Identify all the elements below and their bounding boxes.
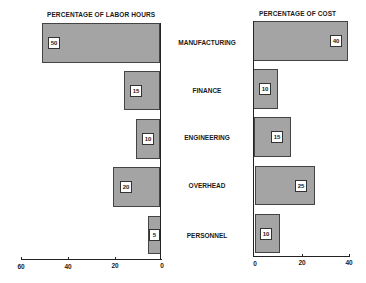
value-label: 20 xyxy=(120,181,132,193)
category-label-overhead: OVERHEAD xyxy=(189,182,226,189)
right-chart-title: PERCENTAGE OF COST xyxy=(259,10,336,17)
value-label: 10 xyxy=(259,83,271,95)
left-chart-title: PERCENTAGE OF LABOR HOURS xyxy=(47,11,155,18)
value-label: 50 xyxy=(48,37,60,49)
tick-label: 60 xyxy=(17,263,24,270)
category-label-engineering: ENGINEERING xyxy=(184,134,230,141)
right-bar-engineering: 15 xyxy=(254,117,291,157)
value-label: 40 xyxy=(330,35,342,47)
category-label-personnel: PERSONNEL xyxy=(187,232,227,239)
right-bar-manufacturing: 40 xyxy=(253,21,348,61)
left-x-axis xyxy=(21,259,162,260)
tick xyxy=(115,257,116,260)
value-label: 25 xyxy=(295,180,307,192)
tick-label: 0 xyxy=(160,262,164,269)
value-label: 15 xyxy=(130,85,142,97)
left-bar-finance: 15 xyxy=(124,71,160,110)
right-bar-personnel: 10 xyxy=(255,214,280,253)
value-label: 5 xyxy=(149,229,160,241)
category-label-manufacturing: MANUFACTURING xyxy=(178,39,235,46)
right-bar-finance: 10 xyxy=(253,69,278,109)
tick-label: 40 xyxy=(64,263,71,270)
tick-label: 0 xyxy=(253,260,257,267)
tick-label: 20 xyxy=(111,262,118,269)
value-label: 10 xyxy=(142,133,154,145)
right-bar-overhead: 25 xyxy=(255,166,315,205)
category-label-finance: FINANCE xyxy=(193,87,222,94)
value-label: 15 xyxy=(271,131,283,143)
tick xyxy=(21,257,22,260)
value-label: 10 xyxy=(260,228,272,240)
tick-label: 20 xyxy=(298,259,305,266)
left-bar-manufacturing: 50 xyxy=(42,23,160,63)
left-bar-overhead: 20 xyxy=(113,167,160,207)
left-bar-engineering: 10 xyxy=(136,119,160,159)
tick-label: 40 xyxy=(345,259,352,266)
right-zero-line xyxy=(253,21,254,257)
tick xyxy=(68,257,69,260)
tick xyxy=(349,254,350,257)
tick xyxy=(302,254,303,257)
left-zero-line xyxy=(160,23,161,260)
